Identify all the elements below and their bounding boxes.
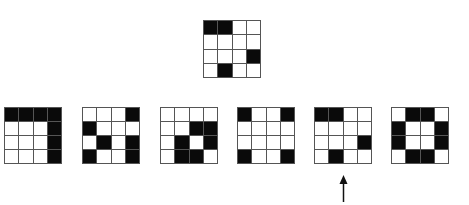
empty-cell [175,108,188,121]
empty-cell [344,122,357,135]
empty-cell [392,108,405,121]
filled-cell [126,108,139,121]
empty-cell [218,35,231,48]
filled-cell [97,136,110,149]
empty-cell [190,136,203,149]
filled-cell [34,108,47,121]
empty-cell [435,150,448,163]
empty-cell [358,122,371,135]
filled-cell [19,108,32,121]
empty-cell [97,122,110,135]
empty-cell [233,21,246,34]
filled-cell [204,136,217,149]
option-grid-3[interactable] [160,107,218,164]
filled-cell [204,122,217,135]
empty-cell [19,150,32,163]
empty-cell [247,64,260,77]
empty-cell [421,136,434,149]
option-grid-5[interactable] [314,107,372,164]
filled-cell [190,122,203,135]
empty-cell [329,122,342,135]
filled-cell [392,122,405,135]
empty-cell [97,150,110,163]
empty-cell [267,108,280,121]
filled-cell [218,64,231,77]
filled-cell [5,108,18,121]
filled-cell [247,50,260,63]
empty-cell [204,108,217,121]
filled-cell [175,150,188,163]
filled-cell [315,108,328,121]
empty-cell [344,136,357,149]
up-arrow-icon [337,175,350,202]
filled-cell [48,136,61,149]
empty-cell [252,150,265,163]
empty-cell [406,122,419,135]
empty-cell [34,150,47,163]
empty-cell [281,122,294,135]
filled-cell [329,108,342,121]
filled-cell [48,108,61,121]
empty-cell [112,122,125,135]
empty-cell [238,136,251,149]
empty-cell [204,35,217,48]
empty-cell [281,136,294,149]
filled-cell [421,150,434,163]
filled-cell [126,136,139,149]
empty-cell [233,35,246,48]
empty-cell [190,108,203,121]
empty-cell [161,136,174,149]
filled-cell [435,136,448,149]
empty-cell [267,150,280,163]
filled-cell [126,150,139,163]
empty-cell [204,150,217,163]
empty-cell [161,108,174,121]
empty-cell [204,64,217,77]
filled-cell [175,136,188,149]
empty-cell [34,136,47,149]
empty-cell [344,150,357,163]
filled-cell [238,108,251,121]
filled-cell [48,122,61,135]
filled-cell [406,150,419,163]
filled-cell [218,21,231,34]
filled-cell [281,150,294,163]
empty-cell [233,64,246,77]
empty-cell [34,122,47,135]
target-pattern-grid [203,20,261,78]
empty-cell [315,122,328,135]
empty-cell [126,122,139,135]
empty-cell [5,122,18,135]
empty-cell [329,136,342,149]
empty-cell [161,122,174,135]
filled-cell [358,136,371,149]
empty-cell [315,150,328,163]
filled-cell [204,21,217,34]
option-grid-4[interactable] [237,107,295,164]
filled-cell [48,150,61,163]
empty-cell [358,150,371,163]
empty-cell [19,122,32,135]
empty-cell [315,136,328,149]
puzzle-stage [0,0,469,205]
empty-cell [406,136,419,149]
filled-cell [435,122,448,135]
empty-cell [97,108,110,121]
option-grid-1[interactable] [4,107,62,164]
empty-cell [252,122,265,135]
empty-cell [238,122,251,135]
empty-cell [267,122,280,135]
empty-cell [392,150,405,163]
empty-cell [83,108,96,121]
filled-cell [392,136,405,149]
empty-cell [252,108,265,121]
filled-cell [83,150,96,163]
option-grid-6[interactable] [391,107,449,164]
empty-cell [421,122,434,135]
empty-cell [5,150,18,163]
empty-cell [112,150,125,163]
filled-cell [281,108,294,121]
option-grid-2[interactable] [82,107,140,164]
empty-cell [218,50,231,63]
empty-cell [112,136,125,149]
